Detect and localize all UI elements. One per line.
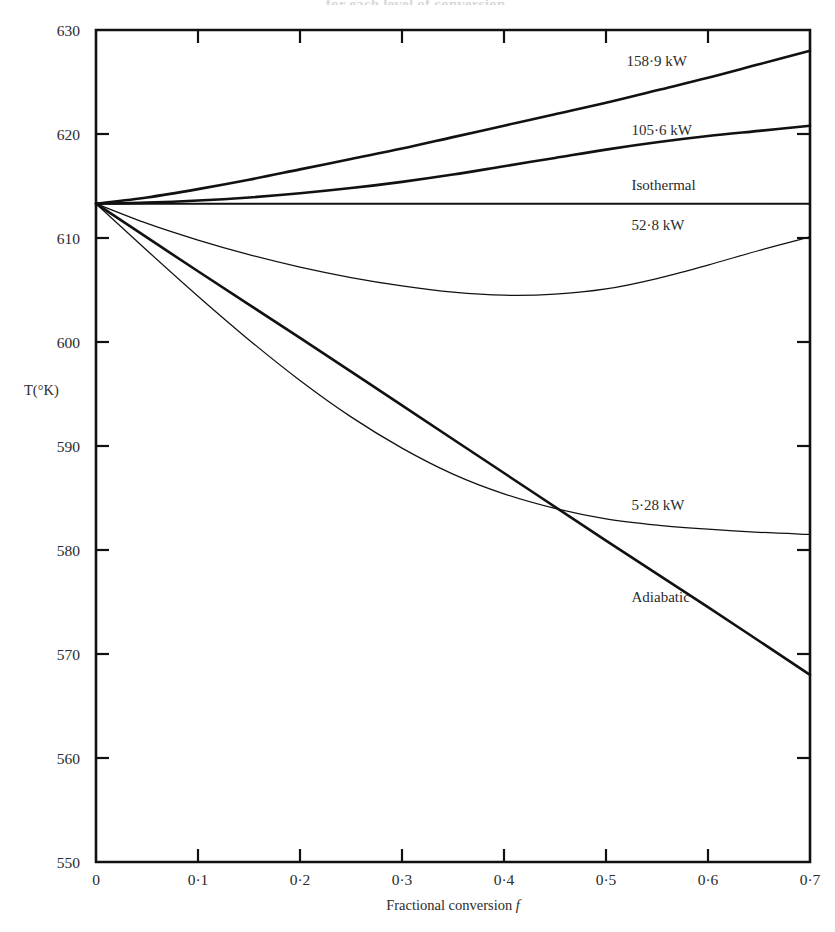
x-tick-label: 0·1 [188, 871, 209, 888]
curve-5-28-kw [96, 204, 810, 535]
y-tick-label: 620 [57, 126, 81, 143]
y-tick-label: 630 [57, 22, 81, 39]
x-tick-label: 0·5 [596, 871, 617, 888]
curve-label-105-6-kw: 105·6 kW [632, 122, 693, 138]
y-tick-label: 590 [57, 438, 81, 455]
curve-label-adiabatic: Adiabatic [632, 589, 691, 605]
x-tick-label: 0·7 [800, 871, 821, 888]
y-tick-label: 600 [57, 334, 81, 351]
y-axis-title: T(°K) [24, 382, 59, 399]
axis-frame [96, 30, 810, 862]
curve-label-5-28-kw: 5·28 kW [632, 497, 686, 513]
y-axis-ticks [96, 134, 810, 758]
plot-axes [96, 30, 810, 862]
curve-label-isothermal: Isothermal [632, 177, 696, 193]
figure-container: for each level of conversion. 5505605705… [0, 0, 835, 932]
x-axis-tick-labels: 00·10·20·30·40·50·60·7 [92, 871, 820, 888]
x-tick-label: 0 [92, 871, 100, 888]
y-tick-label: 580 [57, 542, 81, 559]
curve-52-8-kw [96, 204, 810, 296]
x-tick-label: 0·2 [290, 871, 311, 888]
y-tick-label: 560 [57, 750, 81, 767]
y-tick-label: 570 [57, 646, 81, 663]
curve-adiabatic [96, 204, 810, 675]
x-tick-label: 0·4 [494, 871, 515, 888]
y-axis-tick-labels: 550560570580590600610620630 [57, 22, 81, 871]
curve-label-158-9-kw: 158·9 kW [626, 53, 687, 69]
curve-158-9-kw [96, 51, 810, 204]
y-tick-label: 610 [57, 230, 81, 247]
y-tick-label: 550 [57, 854, 81, 871]
x-axis-ticks [198, 30, 708, 862]
x-tick-label: 0·6 [698, 871, 719, 888]
x-axis-title: Fractional conversion f [386, 897, 522, 913]
cropped-caption-text: for each level of conversion. [0, 0, 835, 5]
curve-label-52-8-kw: 52·8 kW [632, 217, 686, 233]
x-tick-label: 0·3 [392, 871, 413, 888]
data-curves [96, 51, 810, 675]
temperature-vs-conversion-chart: 550560570580590600610620630 00·10·20·30·… [0, 0, 835, 932]
